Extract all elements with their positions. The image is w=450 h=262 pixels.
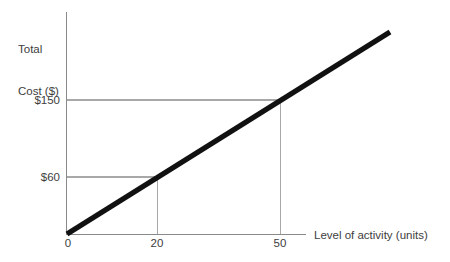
x-tick-label-0: 0 [51, 236, 85, 250]
y-axis-title-line1: Total [18, 42, 59, 56]
x-axis-title: Level of activity (units) [314, 228, 428, 242]
y-tick-label-150: $150 [6, 93, 60, 107]
total-cost-trend-line [67, 32, 390, 234]
cost-behavior-chart: Total Cost ($) Level of activity (units)… [0, 0, 450, 262]
chart-plot-area [0, 0, 450, 262]
y-axis-title: Total Cost ($) [18, 14, 59, 126]
x-tick-label-50: 50 [263, 236, 297, 250]
x-tick-label-20: 20 [140, 236, 174, 250]
y-tick-label-60: $60 [6, 170, 60, 184]
